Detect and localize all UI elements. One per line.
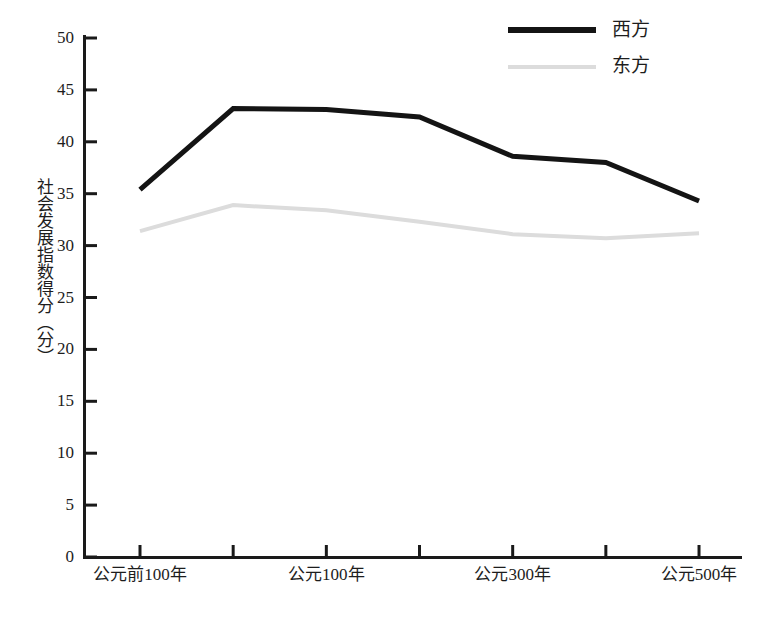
line-chart-plot [0,0,773,620]
chart-legend: 西方 东方 [508,18,758,90]
legend-item-west: 西方 [508,18,758,54]
y-axis-title: 社会发展指数得分（分） [18,178,52,365]
y-tick-label: 5 [40,496,74,513]
series-line-east [140,205,699,238]
legend-label-west: 西方 [612,18,650,42]
y-tick-label: 35 [40,185,74,202]
y-tick-label: 50 [40,29,74,46]
y-tick-label: 15 [40,392,74,409]
x-tick-label: 公元前100年 [93,566,187,583]
y-tick-label: 45 [40,81,74,98]
x-tick-label: 公元100年 [288,566,365,583]
y-tick-label: 40 [40,133,74,150]
y-tick-label: 0 [40,548,74,565]
legend-label-east: 东方 [612,54,650,78]
y-tick-label: 25 [40,289,74,306]
legend-swatch-east-icon [508,65,596,69]
x-axis-ticks [140,545,699,557]
y-tick-label: 30 [40,237,74,254]
y-tick-label: 20 [40,340,74,357]
series-line-west [140,109,699,201]
x-tick-label: 公元300年 [474,566,551,583]
legend-swatch-west-icon [508,27,596,33]
y-tick-label: 10 [40,444,74,461]
legend-item-east: 东方 [508,54,758,90]
data-series-layer [140,109,699,239]
chart-container: 社会发展指数得分（分） 05101520253035404550 公元前100年… [0,0,773,620]
x-tick-label: 公元500年 [661,566,738,583]
